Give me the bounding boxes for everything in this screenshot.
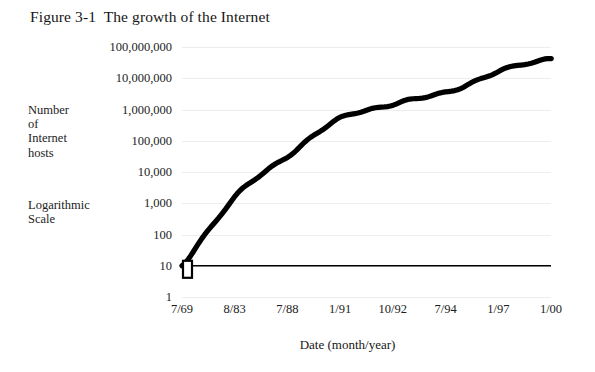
- x-axis-tick-label: 7/94: [434, 302, 456, 317]
- x-axis-tick-label: 7/69: [171, 302, 193, 317]
- x-axis-tick-label: 1/97: [487, 302, 509, 317]
- x-axis-tick-label: 7/88: [276, 302, 298, 317]
- x-axis-tick-label: 8/83: [224, 302, 246, 317]
- x-axis-tick-label: 10/92: [379, 302, 407, 317]
- x-axis-tick-label: 1/00: [540, 302, 562, 317]
- figure-root: Figure 3-1 The growth of the Internet Nu…: [0, 0, 595, 372]
- x-axis-title: Date (month/year): [0, 337, 595, 353]
- internet-hosts-curve: [182, 59, 551, 266]
- start-point-marker: [183, 261, 192, 278]
- x-axis-title-text: Date (month/year): [200, 337, 396, 352]
- x-axis-tick-label: 1/91: [329, 302, 351, 317]
